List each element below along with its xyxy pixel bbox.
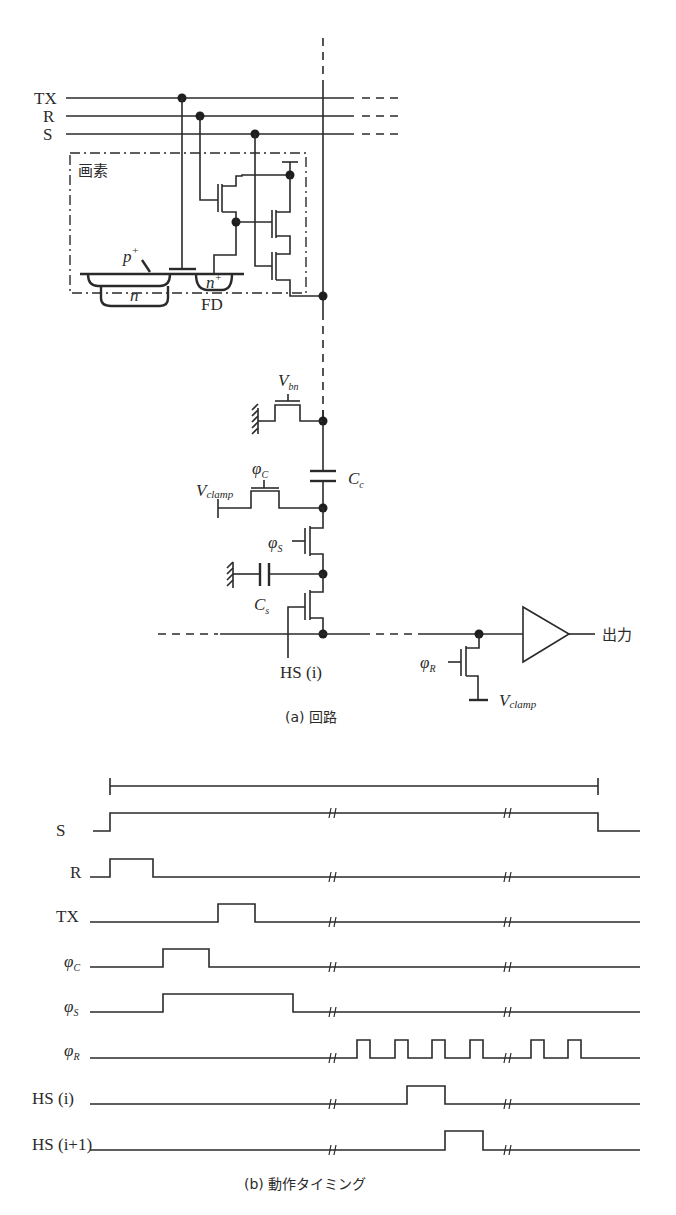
output-label: 出力: [602, 626, 632, 644]
timing-label-tx: TX: [56, 907, 79, 926]
waveform-hs-i1: [90, 1131, 640, 1150]
cs-label: Cs: [254, 595, 269, 616]
hs-gate-wire: [288, 607, 305, 658]
amp-drain-wire: [276, 175, 290, 212]
row-label-tx: TX: [34, 89, 57, 108]
clamp-transistor-channel: [218, 491, 323, 508]
fd-wire: [214, 222, 236, 274]
figure-canvas: TX R S 画素 p+ n n+ FD: [0, 0, 676, 1215]
n-region-label: n: [130, 286, 139, 305]
select-gate-wire: [255, 134, 272, 266]
p-plus-layer: [88, 274, 170, 286]
row-label-s: S: [43, 125, 52, 144]
timing-diagram: S R TX φC φS φR HS (i) HS (i+1): [32, 778, 640, 1192]
hs-i-label: HS (i): [280, 663, 322, 682]
phi-r-source-wire: [466, 676, 478, 700]
timing-caption: (b) 動作タイミング: [244, 1176, 366, 1192]
waveform-r: [90, 859, 640, 877]
fd-label: FD: [201, 295, 223, 314]
timing-label-phi-c: φC: [64, 952, 80, 973]
waveform-tx: [90, 904, 640, 922]
p-plus-label: p+: [122, 244, 139, 266]
select-drain-wire: [276, 250, 290, 254]
ground-hatch-icon-cs: [227, 562, 233, 586]
reset-drain-wire: [222, 175, 290, 186]
cc-label: Cc: [348, 469, 364, 490]
p-plus-pointer: [142, 260, 150, 272]
circuit-caption: (a) 回路: [285, 709, 337, 725]
row-label-r: R: [43, 107, 55, 126]
amp-source-wire: [276, 236, 290, 250]
timing-label-s: S: [56, 821, 65, 840]
vclamp-top-label: Vclamp: [196, 481, 234, 500]
waveform-phi-s: [90, 994, 640, 1012]
column-junction-dot: [319, 292, 328, 301]
pixel-label: 画素: [78, 162, 108, 180]
output-amplifier-icon: [523, 607, 569, 662]
phi-r-label: φR: [420, 653, 436, 674]
break-marks: [329, 808, 511, 1155]
reset-gate-wire: [200, 116, 218, 200]
waveform-phi-c: [90, 949, 640, 967]
vbn-label: Vbn: [278, 371, 298, 392]
timing-label-hs-i: HS (i): [32, 1089, 74, 1108]
timing-label-r: R: [70, 863, 82, 882]
phi-c-label: φC: [252, 459, 268, 480]
timing-label-hs-i1: HS (i+1): [32, 1135, 92, 1154]
ground-hatch-icon: [252, 404, 258, 434]
phi-s-label: φS: [268, 533, 282, 554]
timing-label-phi-s: φS: [64, 997, 78, 1018]
waveform-phi-r: [90, 1040, 640, 1058]
vclamp-bottom-label: Vclamp: [499, 691, 537, 710]
timing-label-phi-r: φR: [64, 1041, 80, 1062]
waveform-s: [93, 813, 640, 831]
waveform-hs-i: [90, 1086, 640, 1104]
circuit-diagram: TX R S 画素 p+ n n+ FD: [34, 38, 632, 725]
load-transistor-channel: [262, 405, 323, 421]
